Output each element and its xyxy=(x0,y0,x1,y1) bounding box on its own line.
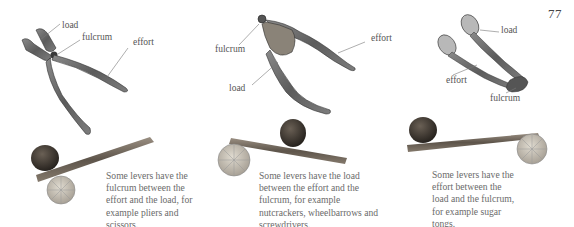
caption-third-class-lever: Some levers have the effort between the … xyxy=(432,169,520,227)
lever-model-2 xyxy=(218,119,347,176)
label-effort-3: effort xyxy=(446,76,467,86)
label-fulcrum-3: fulcrum xyxy=(490,94,520,104)
pliers-image xyxy=(22,29,128,135)
label-fulcrum-2: fulcrum xyxy=(215,45,245,55)
label-fulcrum-1: fulcrum xyxy=(82,33,112,43)
nutcracker-image xyxy=(258,15,355,114)
label-load-1: load xyxy=(62,21,78,31)
label-load-3: load xyxy=(501,26,517,36)
caption-second-class-lever: Some levers have the load between the ef… xyxy=(259,170,383,227)
lever-model-3 xyxy=(407,117,547,164)
caption-first-class-lever: Some levers have the fulcrum between the… xyxy=(106,170,204,227)
label-effort-2: effort xyxy=(371,34,392,44)
label-effort-1: effort xyxy=(133,38,154,48)
label-load-2: load xyxy=(229,84,245,94)
page-number: 77 xyxy=(548,6,562,22)
